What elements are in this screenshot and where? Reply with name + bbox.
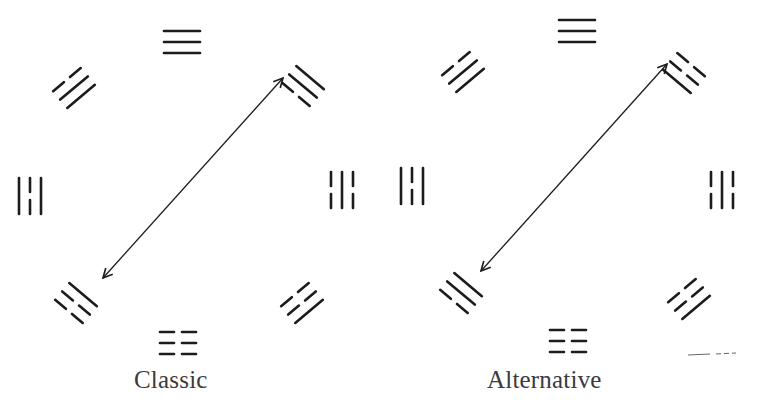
- trigram-upper-left-icon: [53, 68, 95, 108]
- trigram-left-icon: [19, 178, 41, 214]
- trigram-upper-right-icon: [282, 66, 324, 106]
- trigram-bottom-icon: [160, 332, 196, 354]
- swap-arrow-icon: [103, 78, 283, 278]
- classic-panel: [19, 31, 353, 354]
- swap-arrow-icon: [481, 64, 667, 271]
- trigram-upper-left-icon: [442, 52, 484, 92]
- alternative-caption: Alternative: [487, 366, 602, 394]
- trigram-lower-right-icon: [668, 279, 710, 319]
- trigram-arrangements: [0, 0, 757, 420]
- trigram-top-icon: [559, 20, 595, 42]
- trigram-lower-left-icon: [55, 283, 97, 323]
- classic-caption: Classic: [134, 366, 208, 394]
- stray-scan-mark: [688, 353, 736, 355]
- trigram-upper-right-icon: [663, 53, 705, 93]
- trigram-right-icon: [331, 172, 353, 208]
- trigram-lower-right-icon: [281, 283, 323, 323]
- bagua-diagram: Classic Alternative: [0, 0, 757, 420]
- trigram-right-icon: [711, 172, 733, 208]
- trigram-left-icon: [401, 168, 423, 204]
- trigram-lower-left-icon: [440, 273, 482, 313]
- trigram-top-icon: [164, 31, 200, 53]
- alternative-panel: [401, 20, 733, 352]
- trigram-bottom-icon: [550, 330, 586, 352]
